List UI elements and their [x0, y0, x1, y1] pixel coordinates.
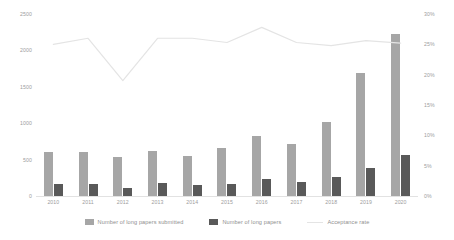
bar-accepted — [123, 188, 132, 196]
y-left-tick: 1000 — [20, 120, 32, 126]
bar-accepted — [262, 179, 271, 196]
y-right-tick: 10% — [424, 132, 435, 138]
y-left-tick: 2500 — [20, 11, 32, 17]
bar-submitted — [217, 148, 226, 196]
x-axis-tick-label: 2014 — [186, 199, 198, 206]
bar-accepted — [332, 177, 341, 196]
x-axis-tick-label: 2017 — [290, 199, 302, 206]
x-axis-baseline — [36, 196, 418, 197]
bar-submitted — [183, 156, 192, 196]
chart-legend: Number of long papers submitted Number o… — [0, 219, 454, 225]
bar-group — [349, 14, 384, 196]
bar-group — [105, 14, 140, 196]
legend-swatch-icon — [85, 219, 94, 225]
x-axis-tick-label: 2010 — [47, 199, 59, 206]
legend-label: Number of long papers submitted — [98, 219, 184, 225]
bar-submitted — [391, 34, 400, 196]
legend-swatch-icon — [209, 219, 218, 225]
bar-submitted — [322, 122, 331, 196]
y-left-tick: 2000 — [20, 47, 32, 53]
bar-group — [279, 14, 314, 196]
x-axis-tick-label: 2019 — [360, 199, 372, 206]
bar-submitted — [79, 152, 88, 196]
y-axis-right: 0% 5% 10% 15% 20% 25% 30% — [424, 0, 454, 240]
bar-group — [36, 14, 71, 196]
y-right-tick: 30% — [424, 11, 435, 17]
bar-accepted — [227, 184, 236, 196]
legend-label: Number of long papers — [222, 219, 281, 225]
acceptance-rate-chart: 0 500 1000 1500 2000 2500 0% 5% 10% 15% … — [0, 0, 454, 240]
y-axis-left: 0 500 1000 1500 2000 2500 — [0, 0, 32, 240]
bar-group — [210, 14, 245, 196]
bar-accepted — [401, 155, 410, 196]
y-left-tick: 500 — [23, 157, 32, 163]
y-right-tick: 20% — [424, 72, 435, 78]
bar-submitted — [148, 151, 157, 197]
bar-group — [314, 14, 349, 196]
legend-label: Acceptance rate — [327, 219, 369, 225]
x-axis-tick-label: 2020 — [395, 199, 407, 206]
x-axis-tick-label: 2016 — [256, 199, 268, 206]
legend-line-icon — [307, 222, 323, 223]
bar-accepted — [366, 168, 375, 196]
bar-accepted — [193, 185, 202, 196]
y-right-tick: 25% — [424, 41, 435, 47]
bar-group — [71, 14, 106, 196]
plot-area — [36, 14, 418, 196]
bar-submitted — [252, 136, 261, 196]
bar-submitted — [356, 73, 365, 196]
y-left-tick: 0 — [29, 193, 32, 199]
bar-accepted — [297, 182, 306, 196]
bar-accepted — [54, 184, 63, 196]
x-axis-tick-label: 2013 — [152, 199, 164, 206]
y-right-tick: 0% — [424, 193, 432, 199]
x-axis-tick-label: 2018 — [325, 199, 337, 206]
bar-group — [383, 14, 418, 196]
y-left-tick: 1500 — [20, 84, 32, 90]
y-right-tick: 5% — [424, 163, 432, 169]
bar-group — [244, 14, 279, 196]
x-axis-tick-label: 2011 — [82, 199, 94, 206]
bar-accepted — [89, 184, 98, 196]
legend-item-submitted[interactable]: Number of long papers submitted — [85, 219, 184, 225]
x-axis-tick-label: 2015 — [221, 199, 233, 206]
bar-submitted — [287, 144, 296, 196]
bar-accepted — [158, 183, 167, 196]
legend-item-acceptance-rate[interactable]: Acceptance rate — [307, 219, 369, 225]
bar-group — [140, 14, 175, 196]
bar-submitted — [113, 157, 122, 196]
bar-submitted — [44, 152, 53, 196]
x-axis-tick-label: 2012 — [117, 199, 129, 206]
bar-group — [175, 14, 210, 196]
y-right-tick: 15% — [424, 102, 435, 108]
legend-item-accepted[interactable]: Number of long papers — [209, 219, 281, 225]
